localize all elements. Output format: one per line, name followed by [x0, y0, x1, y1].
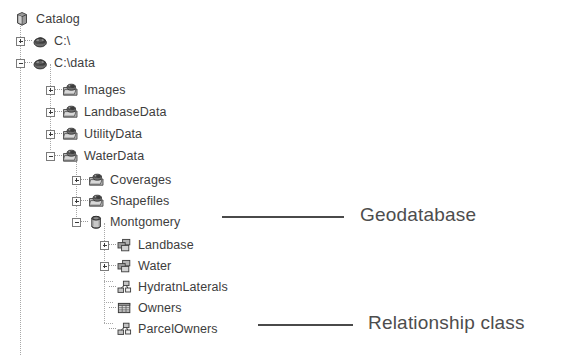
- expander-spacer: [100, 304, 109, 313]
- tree-node-label: Images: [84, 84, 126, 97]
- expand-plus-icon[interactable]: [46, 130, 55, 139]
- tree-connector-stub: [81, 221, 88, 223]
- tree-node-label: HydratnLaterals: [138, 281, 228, 294]
- tree-node-utilitydata[interactable]: UtilityData: [46, 123, 142, 145]
- collapse-minus-icon[interactable]: [72, 218, 81, 227]
- tree-connector-stub: [109, 307, 116, 309]
- collapse-minus-icon[interactable]: [46, 152, 55, 161]
- tree-node-landbasedata[interactable]: LandbaseData: [46, 101, 167, 123]
- tree-node-label: Catalog: [36, 13, 80, 26]
- expander-spacer: [100, 283, 109, 292]
- annotation-relationship-class-leader-line: [258, 324, 353, 326]
- tree-connector-stub: [81, 179, 88, 181]
- tree-node-parcelowners[interactable]: ParcelOwners: [100, 318, 218, 340]
- tree-node-label: Landbase: [138, 239, 194, 252]
- expand-plus-icon[interactable]: [46, 86, 55, 95]
- folder-icon: [62, 126, 79, 142]
- tree-connector-stub: [109, 328, 116, 330]
- folder-icon: [88, 193, 105, 209]
- tree-node-images[interactable]: Images: [46, 79, 126, 101]
- tree-connector-stub: [55, 155, 62, 157]
- expand-plus-icon[interactable]: [100, 241, 109, 250]
- relationship-class-icon: [116, 279, 133, 295]
- tree-node-water[interactable]: Water: [100, 255, 171, 277]
- expander-spacer: [100, 325, 109, 334]
- tree-connector-stub: [109, 265, 116, 267]
- expand-plus-icon[interactable]: [100, 262, 109, 271]
- tree-node-catalog[interactable]: Catalog: [14, 8, 80, 30]
- tree-node-montgomery[interactable]: Montgomery: [72, 211, 180, 233]
- annotation-geodatabase-leader-line: [222, 216, 344, 218]
- tree-node-label: ParcelOwners: [138, 323, 218, 336]
- annotation-relationship-class: Relationship class: [368, 313, 525, 332]
- tree-node-coverages[interactable]: Coverages: [72, 169, 171, 191]
- catalog-tree-panel: CatalogC:\C:\dataImagesLandbaseDataUtili…: [0, 0, 584, 355]
- tree-connector-stub: [55, 133, 62, 135]
- folder-icon: [88, 172, 105, 188]
- folder-icon: [62, 148, 79, 164]
- drive-icon: [32, 33, 49, 49]
- expand-plus-icon[interactable]: [72, 197, 81, 206]
- folder-icon: [62, 82, 79, 98]
- tree-node-label: Montgomery: [110, 216, 180, 229]
- geodatabase-icon: [88, 214, 105, 230]
- collapse-minus-icon[interactable]: [16, 59, 25, 68]
- tree-node-c-data[interactable]: C:\data: [16, 52, 95, 74]
- tree-node-landbase[interactable]: Landbase: [100, 234, 194, 256]
- catalog-cube-icon: [14, 11, 31, 27]
- folder-icon: [62, 104, 79, 120]
- tree-connector-stub: [55, 111, 62, 113]
- tree-node-owners[interactable]: Owners: [100, 297, 182, 319]
- expand-plus-icon[interactable]: [72, 176, 81, 185]
- tree-node-label: C:\: [54, 35, 70, 48]
- tree-node-label: WaterData: [84, 150, 144, 163]
- expand-plus-icon[interactable]: [16, 37, 25, 46]
- tree-connector-stub: [81, 200, 88, 202]
- tree-node-label: Shapefiles: [110, 195, 169, 208]
- annotation-geodatabase: Geodatabase: [360, 205, 476, 224]
- tree-connector-stub: [55, 89, 62, 91]
- tree-connector-stub: [109, 286, 116, 288]
- tree-node-label: Owners: [138, 302, 182, 315]
- feature-dataset-icon: [116, 258, 133, 274]
- drive-icon: [32, 55, 49, 71]
- tree-connector-stub: [25, 40, 32, 42]
- expand-plus-icon[interactable]: [46, 108, 55, 117]
- tree-node-label: C:\data: [54, 57, 95, 70]
- tree-node-label: LandbaseData: [84, 106, 167, 119]
- table-icon: [116, 300, 133, 316]
- tree-node-waterdata[interactable]: WaterData: [46, 145, 144, 167]
- tree-node-label: Coverages: [110, 174, 171, 187]
- tree-connector-stub: [25, 62, 32, 64]
- tree-connector-stub: [109, 244, 116, 246]
- tree-node-hydratnlaterals[interactable]: HydratnLaterals: [100, 276, 228, 298]
- tree-node-c[interactable]: C:\: [16, 30, 70, 52]
- feature-dataset-icon: [116, 237, 133, 253]
- tree-node-label: Water: [138, 260, 171, 273]
- relationship-class-icon: [116, 321, 133, 337]
- tree-node-shapefiles[interactable]: Shapefiles: [72, 190, 169, 212]
- tree-node-label: UtilityData: [84, 128, 142, 141]
